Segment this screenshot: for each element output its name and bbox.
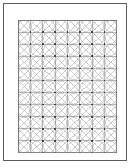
intersection-dot [67,80,69,82]
intersection-dot [30,68,32,70]
intersection-dot [104,140,106,142]
intersection-dot [30,92,32,94]
intersection-dot [91,68,93,70]
intersection-dot [54,68,56,70]
intersection-dot [91,128,93,130]
intersection-dot [79,31,81,33]
intersection-dot [91,140,93,142]
paper-surface [4,4,126,160]
intersection-dot [42,116,44,118]
intersection-dot [67,55,69,57]
intersection-dot [42,128,44,130]
intersection-dot [79,92,81,94]
intersection-dot [91,92,93,94]
intersection-dot [104,116,106,118]
intersection-dot [91,104,93,106]
intersection-dot [42,55,44,57]
intersection-dot [104,92,106,94]
intersection-dot [104,128,106,130]
intersection-dot [30,104,32,106]
intersection-dot [91,55,93,57]
intersection-dot [104,43,106,45]
intersection-dot [91,43,93,45]
intersection-dot [91,116,93,118]
intersection-dot [79,128,81,130]
intersection-dot [67,31,69,33]
intersection-dot [30,116,32,118]
intersection-dot [67,68,69,70]
intersection-dot [54,80,56,82]
intersection-dot [30,31,32,33]
intersection-dot [67,128,69,130]
intersection-dot [79,43,81,45]
intersection-dot [79,68,81,70]
intersection-dot [104,31,106,33]
intersection-dot [30,80,32,82]
intersection-dot [104,68,106,70]
intersection-dot [67,43,69,45]
intersection-dot [67,116,69,118]
intersection-dot [54,128,56,130]
intersection-dot [67,104,69,106]
intersection-dot [54,43,56,45]
intersection-dot [104,55,106,57]
intersection-dot [91,31,93,33]
intersection-dot [30,43,32,45]
intersection-dot [30,140,32,142]
intersection-dot [79,104,81,106]
intersection-dot [42,80,44,82]
intersection-dot [54,31,56,33]
intersection-dot [79,55,81,57]
intersection-dot [30,128,32,130]
intersection-dot [54,116,56,118]
intersection-dot [42,140,44,142]
gridlines-layer [18,20,117,153]
intersection-dot [54,55,56,57]
intersection-dot [42,31,44,33]
intersection-dot [54,140,56,142]
intersection-dot [42,43,44,45]
intersection-dot [67,140,69,142]
intersection-dot [79,116,81,118]
intersection-dot [54,104,56,106]
intersection-dot [104,104,106,106]
intersection-dot [54,92,56,94]
pattern-block [18,20,117,153]
intersection-dot [79,80,81,82]
page-canvas [0,0,131,168]
intersection-dot [30,55,32,57]
intersection-dot [42,92,44,94]
pattern-svg [18,20,117,153]
intersection-dot [42,104,44,106]
intersection-dot [91,80,93,82]
intersection-dot [67,92,69,94]
intersection-dot [104,80,106,82]
intersection-dot [79,140,81,142]
intersection-dot [42,68,44,70]
